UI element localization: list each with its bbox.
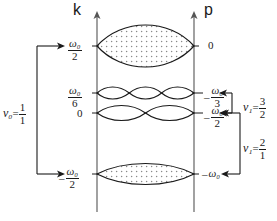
omega-symbol: ω₀ <box>209 167 221 179</box>
p-tick-label-bottom: –ω₀ <box>202 168 220 180</box>
nu0-bracket-label: ν₀= 1 1 <box>3 102 26 126</box>
band-bottom <box>97 164 194 185</box>
nu1-lower-bracket-label: ν₁= 2 1 <box>243 137 266 161</box>
k-axis-ticks <box>92 46 99 174</box>
omega-symbol: ω₀ <box>69 84 81 96</box>
band-mid-low <box>97 106 194 121</box>
k-tick-label-mid-high: ω₀ 6 <box>68 85 82 109</box>
nu-symbol: ν₀ <box>3 106 13 120</box>
band-mid-high <box>97 87 194 99</box>
band-structure-figure: k p ω₀ 2 ω₀ 6 0 – ω₀ 2 0 – ω₀ 3 – ω₀ 2 <box>0 0 277 221</box>
p-tick-label-top: 0 <box>208 40 214 51</box>
omega-symbol: ω₀ <box>69 37 81 49</box>
omega-symbol: ω₀ <box>212 104 224 116</box>
p-tick-label-mid-low: – ω₀ 2 <box>204 105 224 129</box>
k-tick-label-top: ω₀ 2 <box>68 38 82 62</box>
omega-symbol: ω₀ <box>67 165 79 177</box>
nu-symbol: ν₁ <box>243 141 253 155</box>
omega-symbol: ω₀ <box>212 84 224 96</box>
nu1-upper-bracket-label: ν₁= 3 2 <box>243 96 266 120</box>
nu-symbol: ν₁ <box>243 100 253 114</box>
k-axis-label: k <box>73 2 81 18</box>
figure-canvas <box>0 0 277 221</box>
k-tick-label-bottom: – ω₀ 2 <box>59 166 79 190</box>
left-bracket <box>37 43 65 178</box>
p-axis-label: p <box>204 2 213 18</box>
band-top <box>97 25 194 67</box>
k-tick-label-zero: 0 <box>77 108 83 119</box>
